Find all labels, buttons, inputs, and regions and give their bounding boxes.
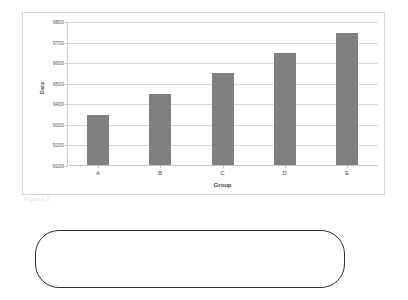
y-tick-label: 9500 — [53, 81, 64, 87]
y-tick-mark — [65, 104, 67, 105]
gridline — [67, 63, 378, 64]
bar-chart-figure: Data 91009200930094009500960097009800 Gr… — [22, 12, 385, 195]
y-tick-mark — [65, 22, 67, 23]
y-tick-label: 9800 — [53, 19, 64, 25]
x-tick-mark — [98, 166, 99, 168]
rounded-text-box[interactable] — [35, 230, 345, 288]
bar-d — [274, 53, 296, 165]
y-tick-label: 9700 — [53, 40, 64, 46]
x-tick-label-d: D — [265, 170, 305, 176]
x-tick-label-b: B — [140, 170, 180, 176]
y-tick-label: 9200 — [53, 142, 64, 148]
plot-area: 91009200930094009500960097009800 — [67, 22, 378, 166]
x-tick-label-c: C — [203, 170, 243, 176]
x-axis-title: Group — [67, 182, 378, 188]
y-axis-title: Data — [39, 65, 45, 111]
y-tick-mark — [65, 43, 67, 44]
x-tick-mark — [223, 166, 224, 168]
y-tick-label: 9400 — [53, 101, 64, 107]
caption-fragment: Figure 2 — [24, 196, 50, 202]
y-tick-label: 9300 — [53, 122, 64, 128]
bar-a — [87, 115, 109, 165]
gridline — [67, 43, 378, 44]
y-tick-mark — [65, 125, 67, 126]
x-tick-mark — [285, 166, 286, 168]
x-tick-label-a: A — [78, 170, 118, 176]
y-axis-line — [67, 22, 68, 166]
x-tick-mark — [347, 166, 348, 168]
bar-b — [149, 94, 171, 165]
y-tick-label: 9100 — [53, 163, 64, 169]
y-tick-label: 9600 — [53, 60, 64, 66]
bar-c — [212, 73, 234, 165]
y-tick-mark — [65, 166, 67, 167]
y-tick-mark — [65, 63, 67, 64]
bar-e — [336, 33, 358, 165]
gridline — [67, 22, 378, 23]
y-tick-mark — [65, 84, 67, 85]
y-tick-mark — [65, 145, 67, 146]
x-tick-mark — [160, 166, 161, 168]
x-tick-label-e: E — [327, 170, 367, 176]
